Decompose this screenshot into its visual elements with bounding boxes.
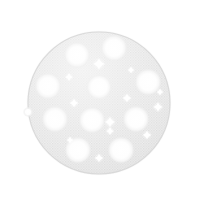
sparkle-lower-center [106,127,115,136]
hole-upper-left [35,73,60,98]
hole-top-left-opening [66,44,89,67]
hole-center-opening [88,76,110,98]
hole-top-right-opening [103,37,126,60]
product-image-canvas [0,0,197,198]
sparkle-upper-mid [122,93,132,103]
hole-top-left [64,42,89,67]
hole-mid-left [42,106,67,131]
sparkle-bottom-mid [94,153,104,163]
sanding-disc-illustration [0,0,197,198]
hole-center [87,75,111,99]
sparkle-top-left [65,73,74,82]
hole-upper-left-opening [37,75,60,98]
hole-mid-right-opening [125,108,148,131]
sparkle-top-center [92,57,105,70]
hole-mid-right [123,106,148,131]
hole-bottom-right-opening [110,139,133,162]
sparkle-upper-right [127,66,135,74]
hole-top-right [101,35,126,60]
sparkle-lower-right [142,130,152,140]
sparkle-left-lower [66,136,74,144]
hole-bottom-right [108,137,133,162]
hole-mid-left-opening [44,108,67,131]
hole-lower-edge [23,107,32,116]
hole-upper-right-opening [137,71,160,94]
hole-mid-center-opening [81,109,104,132]
hole-lower-edge-opening [25,109,32,116]
hole-mid-center [79,107,104,132]
sparkle-right-edge [156,88,164,96]
sparkle-center [104,116,116,128]
sparkle-right-upper [153,102,164,113]
sparkle-left-mid [69,98,79,108]
